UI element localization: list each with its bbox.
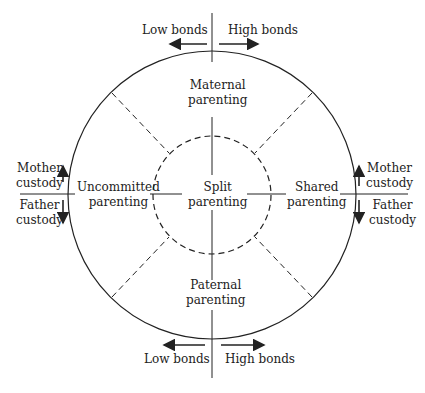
maternal-parenting-label: Maternal parenting xyxy=(188,78,247,108)
dashed-spoke-nw xyxy=(112,93,169,153)
dashed-spoke-se xyxy=(255,237,312,297)
shared-parenting-label: Shared parenting xyxy=(287,180,346,210)
top-low-bonds-label: Low bonds xyxy=(142,23,208,38)
dashed-spoke-ne xyxy=(255,93,312,153)
dashed-spoke-sw xyxy=(112,237,169,297)
top-high-bonds-label: High bonds xyxy=(228,23,298,38)
left-father-custody-label: Father custody xyxy=(16,198,63,228)
left-mother-custody-label: Mother custody xyxy=(16,161,63,191)
right-father-custody-label: Father custody xyxy=(369,198,416,228)
bottom-high-bonds-label: High bonds xyxy=(225,352,295,367)
split-parenting-label: Split parenting xyxy=(188,180,247,210)
paternal-parenting-label: Paternal parenting xyxy=(186,278,245,308)
right-mother-custody-label: Mother custody xyxy=(366,161,413,191)
uncommitted-parenting-label: Uncommitted parenting xyxy=(77,180,160,210)
bottom-low-bonds-label: Low bonds xyxy=(144,352,210,367)
